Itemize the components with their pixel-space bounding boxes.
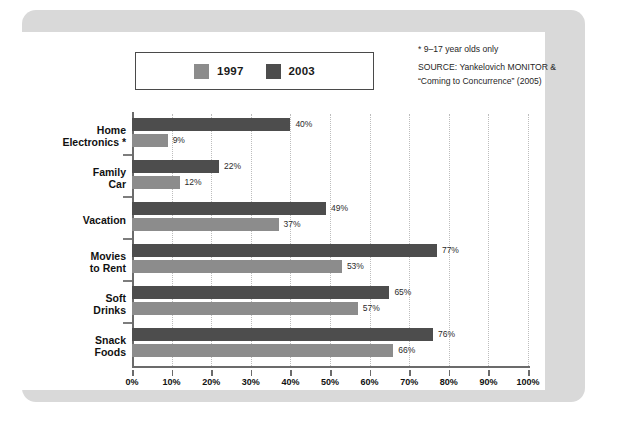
x-tick-label: 50% <box>321 377 339 387</box>
category-label-line: Movies <box>26 250 126 263</box>
category-label-line: Snack <box>26 334 126 347</box>
bar-1997 <box>132 302 358 315</box>
x-tick-mark <box>290 370 292 376</box>
category-tick-mark <box>123 196 132 198</box>
bar-1997 <box>132 218 279 231</box>
bar-value-1997: 57% <box>363 302 380 315</box>
category-label-line: to Rent <box>26 262 126 275</box>
bar-value-1997: 12% <box>185 176 202 189</box>
bar-group: 77%53% <box>132 244 528 286</box>
source-line-1: SOURCE: Yankelovich MONITOR & <box>418 61 619 74</box>
bar-2003 <box>132 244 437 257</box>
legend-label-1997: 1997 <box>217 65 243 77</box>
source-footnote: * 9–17 year olds only <box>418 43 619 56</box>
category-tick-mark <box>123 154 132 156</box>
x-tick-label: 80% <box>440 377 458 387</box>
legend-entry-1997: 1997 <box>194 64 243 79</box>
bar-1997 <box>132 344 393 357</box>
bar-value-2003: 40% <box>295 118 312 131</box>
bar-group: 49%37% <box>132 202 528 244</box>
category-label-line: Drinks <box>26 304 126 317</box>
x-tick-label: 40% <box>281 377 299 387</box>
bar-value-2003: 22% <box>224 160 241 173</box>
chart-panel: 1997 2003 * 9–17 year olds only SOURCE: … <box>22 10 585 402</box>
bar-value-1997: 9% <box>173 134 185 147</box>
bar-2003 <box>132 160 219 173</box>
x-tick-mark <box>211 370 213 376</box>
bar-value-1997: 53% <box>347 260 364 273</box>
source-note: * 9–17 year olds only SOURCE: Yankelovic… <box>418 43 619 88</box>
x-tick-label: 10% <box>163 377 181 387</box>
x-tick-mark <box>330 370 332 376</box>
category-tick-mark <box>123 322 132 324</box>
category-label: Moviesto Rent <box>26 250 126 275</box>
x-tick-mark <box>251 370 253 376</box>
x-tick-mark <box>370 370 372 376</box>
legend-swatch-2003-icon <box>266 64 281 79</box>
x-tick-mark <box>409 370 411 376</box>
bar-value-1997: 37% <box>284 218 301 231</box>
category-label: SoftDrinks <box>26 292 126 317</box>
category-label-line: Car <box>26 178 126 191</box>
x-tick-label: 30% <box>242 377 260 387</box>
category-label: Vacation <box>26 214 126 227</box>
x-tick-label: 0% <box>125 377 138 387</box>
bar-1997 <box>132 260 342 273</box>
category-label-line: Home <box>26 124 126 137</box>
x-tick-label: 100% <box>516 377 539 387</box>
legend-swatch-1997-icon <box>194 64 209 79</box>
bar-value-2003: 49% <box>331 202 348 215</box>
bar-group: 40%9% <box>132 118 528 160</box>
bar-value-2003: 65% <box>394 286 411 299</box>
legend-entry-2003: 2003 <box>266 64 315 79</box>
category-label-line: Vacation <box>26 214 126 227</box>
bar-2003 <box>132 118 290 131</box>
bar-group: 22%12% <box>132 160 528 202</box>
x-tick-label: 60% <box>361 377 379 387</box>
bar-value-1997: 66% <box>398 344 415 357</box>
bar-2003 <box>132 286 389 299</box>
x-tick-mark <box>528 370 530 376</box>
x-tick-mark <box>488 370 490 376</box>
bar-value-2003: 77% <box>442 244 459 257</box>
category-label: SnackFoods <box>26 334 126 359</box>
bar-group: 65%57% <box>132 286 528 328</box>
gridline <box>528 114 530 366</box>
bar-2003 <box>132 202 326 215</box>
x-tick-mark <box>449 370 451 376</box>
x-axis-ticks: 0%10%20%30%40%50%60%70%80%90%100% <box>132 370 532 390</box>
plot-area: 40%9%22%12%49%37%77%53%65%57%76%66% <box>132 114 528 366</box>
category-label-line: Foods <box>26 346 126 359</box>
source-line-2: “Coming to Concurrence” (2005) <box>418 75 619 88</box>
x-tick-label: 90% <box>479 377 497 387</box>
category-label-line: Family <box>26 166 126 179</box>
x-tick-label: 20% <box>202 377 220 387</box>
category-tick-mark <box>123 238 132 240</box>
x-tick-label: 70% <box>400 377 418 387</box>
category-axis-labels: HomeElectronics *FamilyCarVacationMovies… <box>22 114 126 366</box>
category-label: HomeElectronics * <box>26 124 126 149</box>
category-label-line: Electronics * <box>26 136 126 149</box>
x-tick-mark <box>172 370 174 376</box>
bar-1997 <box>132 134 168 147</box>
category-tick-mark <box>123 280 132 282</box>
category-label: FamilyCar <box>26 166 126 191</box>
category-label-line: Soft <box>26 292 126 305</box>
bar-2003 <box>132 328 433 341</box>
bar-group: 76%66% <box>132 328 528 370</box>
chart-legend: 1997 2003 <box>135 52 374 90</box>
bar-1997 <box>132 176 180 189</box>
legend-label-2003: 2003 <box>289 65 315 77</box>
x-tick-mark <box>132 370 134 376</box>
bar-value-2003: 76% <box>438 328 455 341</box>
